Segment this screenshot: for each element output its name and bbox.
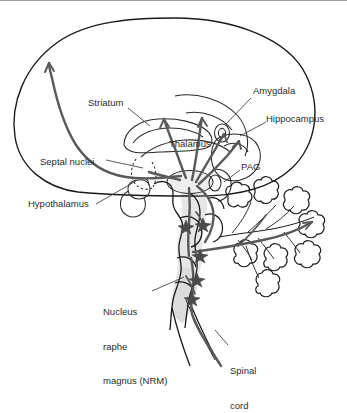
spinal-cord-line-2: cord: [230, 400, 256, 412]
label-septal-nuclei: Septal nuclei: [40, 156, 94, 168]
leader-amygdala: [226, 98, 251, 124]
leader-hippocampus: [240, 122, 266, 136]
cerebellar-tract: [193, 222, 312, 252]
leader-spinal-cord: [215, 330, 228, 345]
label-spinal-cord: Spinal cord: [230, 342, 256, 413]
nrm-line-1: Nucleus: [103, 306, 167, 318]
leader-septal: [106, 160, 143, 168]
label-striatum: Striatum: [88, 97, 123, 109]
leader-hypothalamus: [96, 181, 136, 204]
label-nucleus-raphe-magnus: Nucleus raphe magnus (NRM): [103, 283, 167, 410]
label-pag: PAG: [241, 161, 260, 173]
nrm-line-2: raphe: [103, 341, 167, 353]
label-hypothalamus: Hypothalamus: [28, 198, 89, 210]
label-hippocampus: Hippocampus: [266, 113, 324, 125]
spinal-cord-line-1: Spinal: [230, 365, 256, 377]
nrm-line-3: magnus (NRM): [103, 375, 167, 387]
fornix-arc-2: [186, 112, 232, 130]
label-amygdala: Amygdala: [253, 85, 295, 97]
label-thalamus: Thalamus: [169, 138, 211, 150]
